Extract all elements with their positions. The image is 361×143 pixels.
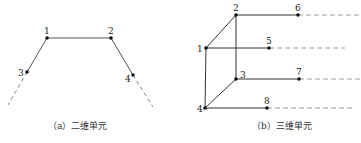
node-label-7: 7: [296, 67, 302, 77]
node-4: [131, 73, 135, 77]
edge-1-2: [206, 15, 236, 48]
node-label-3: 3: [240, 70, 246, 80]
node-label-1: 1: [44, 26, 50, 36]
node-label-4: 4: [125, 74, 131, 84]
edge-2-4: [111, 38, 133, 75]
edge-1-3: [27, 38, 47, 72]
node-label-3: 3: [18, 68, 24, 78]
node-6: [296, 13, 300, 17]
caption-b: （b）三维单元: [252, 120, 312, 131]
node-label-6: 6: [295, 3, 301, 13]
node-label-4: 4: [197, 104, 203, 114]
dashed-extension-4: [133, 75, 153, 107]
edge-1-4: [205, 48, 206, 108]
node-label-8: 8: [264, 96, 270, 106]
node-7: [297, 77, 301, 81]
node-1: [204, 46, 208, 50]
node-3: [234, 77, 238, 81]
node-8: [265, 106, 269, 110]
node-label-1: 1: [197, 44, 203, 54]
figure-b-3d-element: 1 2 3 4 5 6 7 8 （b）三维单元: [197, 3, 360, 131]
node-5: [267, 46, 271, 50]
node-2: [109, 36, 113, 40]
caption-a: （a）二维单元: [48, 120, 107, 131]
node-2: [234, 13, 238, 17]
node-1: [45, 36, 49, 40]
node-label-2: 2: [233, 3, 239, 13]
node-4: [203, 106, 207, 110]
node-label-2: 2: [108, 26, 114, 36]
figure-a-2d-element: 1 2 3 4 （a）二维单元: [8, 26, 153, 131]
node-3: [25, 70, 29, 74]
element-diagram: 1 2 3 4 （a）二维单元 1 2 3 4 5 6 7 8 （b）三维单: [0, 0, 361, 143]
edge-3-4: [205, 79, 236, 108]
node-label-5: 5: [266, 36, 272, 46]
